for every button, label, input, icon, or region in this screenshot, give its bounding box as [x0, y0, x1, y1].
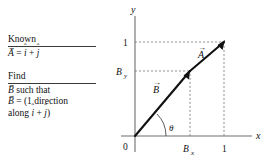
find-plus-operator: +: [37, 108, 42, 118]
known-block: Known →A = ˆi + ˆj: [8, 34, 104, 60]
vector-b-label-arrow: →: [153, 78, 161, 87]
find-line-1-text: such that: [14, 85, 50, 95]
y-tick-by-subscript: y: [123, 72, 128, 80]
vector-diagram-panel: y x 0 1 B y B x 1 θ: [104, 0, 266, 165]
x-axis-label: x: [255, 130, 261, 141]
y-tick-label-by: B y: [116, 67, 128, 80]
axes: [121, 16, 252, 152]
x-tick-bx-subscript: x: [190, 149, 195, 157]
x-tick-label-one: 1: [222, 144, 227, 154]
known-heading: Known: [8, 34, 96, 47]
unit-vector-i-letter: i: [31, 108, 34, 118]
known-relation-operator: =: [16, 48, 21, 58]
x-tick-bx-letter: B: [183, 144, 189, 154]
vector-b-symbol-line2: →B: [8, 96, 14, 108]
known-body: →A = ˆi + ˆj: [8, 47, 104, 60]
find-block: Find →B such that →B = (1 direction alon…: [8, 71, 104, 120]
known-equation: →A = ˆi + ˆj: [8, 48, 104, 60]
find-line-3-text: along: [8, 108, 31, 118]
vector-b-label-group: B →: [153, 78, 161, 95]
unit-vector-j-symbol: ˆj: [37, 48, 40, 60]
theta-label: θ: [169, 123, 174, 133]
vector-b-shaft: [135, 71, 190, 136]
vector-a-label-arrow: →: [198, 43, 206, 52]
vector-shafts: [135, 42, 224, 136]
known-find-panel: Known →A = ˆi + ˆj Find →B such that →B …: [8, 34, 104, 119]
known-plus-operator: +: [29, 48, 34, 58]
vector-b-letter: B: [8, 96, 14, 106]
find-line-1: →B such that: [8, 85, 104, 97]
find-body: →B such that →B = (1 direction along ˆi …: [8, 84, 104, 120]
find-line-3: along ˆi + ˆj): [8, 108, 104, 120]
origin-label: 0: [123, 142, 128, 152]
dashed-guides: [135, 42, 224, 136]
unit-vector-j-symbol-find: ˆj: [44, 108, 47, 120]
vector-a-symbol: →A: [8, 48, 14, 60]
x-tick-label-bx: B x: [183, 144, 195, 157]
find-line-2-text: = (1 direction: [14, 96, 68, 106]
unit-vector-j-letter: j: [37, 48, 40, 58]
unit-vector-i-symbol: ˆi: [24, 48, 27, 60]
figure-container: Known →A = ˆi + ˆj Find →B such that →B …: [0, 0, 266, 165]
find-line-2: →B = (1 direction: [8, 96, 104, 108]
y-tick-label-one: 1: [123, 38, 128, 48]
vector-a-letter: A: [8, 48, 14, 58]
unit-vector-i-letter: i: [24, 48, 27, 58]
unit-vector-i-symbol-find: ˆi: [31, 108, 34, 120]
y-tick-by-letter: B: [116, 67, 122, 77]
vector-a-arrowhead: [218, 40, 226, 50]
unit-vector-j-letter: j: [44, 108, 47, 118]
y-axis-label: y: [130, 4, 136, 15]
vector-b-symbol-line1: →B: [8, 85, 14, 97]
angle-arc: [157, 114, 166, 136]
vector-diagram-svg: y x 0 1 B y B x 1 θ: [104, 0, 266, 165]
angle-theta-group: θ: [157, 114, 174, 136]
vector-b-letter: B: [8, 85, 14, 95]
find-closing-paren: ): [47, 108, 50, 118]
find-heading: Find: [8, 71, 96, 84]
